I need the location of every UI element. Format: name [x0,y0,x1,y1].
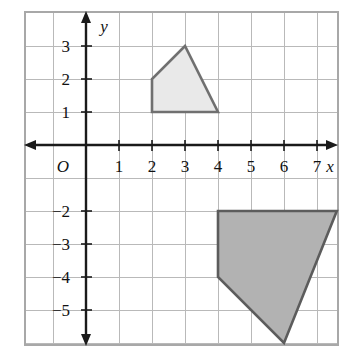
y-tick-label: 1 [62,103,71,122]
y-tick-label: −5 [52,301,70,320]
x-tick-label: 5 [247,157,256,176]
x-tick-label: 1 [115,157,124,176]
x-axis-name-label: x [325,157,334,176]
x-tick-label: 7 [313,157,322,176]
y-axis-name-label: y [98,17,108,36]
y-tick-label: 2 [62,70,71,89]
y-tick-label: −2 [52,202,70,221]
x-tick-label: 6 [280,157,289,176]
origin-label: O [57,157,69,176]
y-tick-label: −4 [52,268,71,287]
x-tick-label: 4 [214,157,223,176]
y-tick-label: 3 [62,37,71,56]
x-tick-label: 3 [181,157,190,176]
y-tick-label: −3 [52,235,70,254]
x-tick-label: 2 [148,157,157,176]
coordinate-plane-figure: 1234567 321−2−3−4−5 O x y [0,0,349,359]
coordinate-plane-svg: 1234567 321−2−3−4−5 O x y [0,0,349,359]
